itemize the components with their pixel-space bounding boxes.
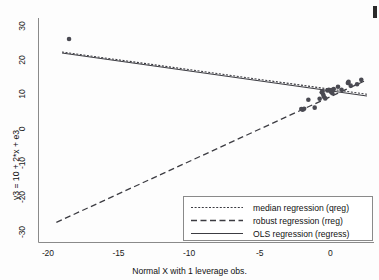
legend-label: OLS regression (regress) — [253, 229, 349, 239]
data-point — [348, 83, 353, 88]
data-point — [359, 78, 364, 83]
x-axis-title: Normal X with 1 leverage obs. — [0, 266, 379, 276]
data-point — [323, 96, 328, 101]
data-point — [331, 87, 336, 92]
data-point — [336, 84, 341, 89]
regression-line — [62, 52, 367, 94]
y-tick-label: -30 — [17, 222, 27, 242]
legend-key-icon — [191, 215, 247, 227]
y-tick-label: 30 — [17, 16, 27, 36]
legend-label: median regression (qreg) — [253, 203, 349, 213]
y-axis-title: y3 = 10 + 2*x + e3 — [11, 130, 21, 200]
data-point — [67, 37, 72, 42]
legend-item: median regression (qreg) — [184, 201, 372, 214]
data-point — [339, 87, 344, 92]
data-point — [355, 82, 360, 87]
data-point — [330, 91, 335, 96]
x-tick-label: -10 — [174, 248, 204, 258]
legend-key-icon — [191, 228, 247, 240]
corner-artifact — [373, 6, 377, 18]
data-point — [302, 106, 307, 111]
legend-label: robust regression (rreg) — [253, 216, 343, 226]
y-tick-label: 20 — [17, 50, 27, 70]
legend-key-icon — [191, 202, 247, 214]
data-point — [306, 97, 311, 102]
x-tick-label: 0 — [315, 248, 345, 258]
chart-canvas: 3020100-10-20-30 -20-15-10-50 y3 = 10 + … — [0, 0, 379, 280]
y-tick-label: 10 — [17, 84, 27, 104]
chart-legend: median regression (qreg)robust regressio… — [183, 196, 373, 241]
x-tick-label: -15 — [103, 248, 133, 258]
data-point — [312, 105, 317, 110]
x-tick-label: -20 — [33, 248, 63, 258]
data-point — [317, 96, 322, 101]
legend-item: robust regression (rreg) — [184, 214, 372, 227]
x-tick-label: -5 — [245, 248, 275, 258]
legend-item: OLS regression (regress) — [184, 227, 372, 240]
